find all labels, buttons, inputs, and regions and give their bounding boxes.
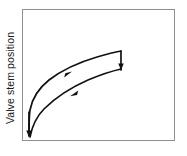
plot-area <box>0 0 187 156</box>
valve-hysteresis-figure: Valve stem position <box>0 0 187 156</box>
x-axis-label <box>22 144 175 156</box>
